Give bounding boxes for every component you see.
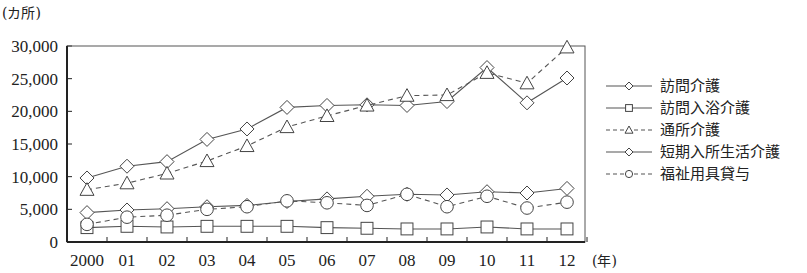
circle-marker — [161, 209, 174, 222]
circle-marker — [241, 200, 254, 213]
diamond-marker — [240, 122, 254, 136]
square-marker — [161, 221, 173, 233]
x-tick-label: 2000 — [70, 251, 104, 270]
square-marker — [401, 223, 413, 235]
series-group — [80, 40, 574, 235]
x-tick-label: 06 — [319, 251, 336, 270]
legend-label: 訪問介護 — [660, 77, 720, 95]
triangle-marker — [280, 120, 294, 133]
diamond-marker — [440, 188, 454, 202]
circle-marker — [625, 170, 632, 177]
square-marker — [561, 223, 573, 235]
y-tick-label: 15,000 — [11, 135, 58, 154]
x-tick-label: 05 — [279, 251, 296, 270]
x-tick-label: 02 — [159, 251, 176, 270]
triangle-marker — [400, 89, 414, 102]
legend-label: 通所介護 — [660, 121, 720, 139]
square-marker — [361, 222, 373, 234]
triangle-marker — [320, 109, 334, 122]
diamond-marker — [560, 71, 574, 85]
y-tick-label: 30,000 — [11, 37, 58, 56]
circle-marker — [81, 218, 94, 231]
y-tick-label: 10,000 — [11, 168, 58, 187]
diamond-marker — [560, 181, 574, 195]
circle-marker — [401, 188, 414, 201]
circle-marker — [281, 195, 294, 208]
circle-marker — [321, 197, 334, 210]
legend-item: 通所介護 — [606, 121, 720, 139]
square-marker — [241, 220, 253, 232]
legend-label: 訪問入浴介護 — [660, 99, 750, 117]
circle-marker — [481, 190, 494, 203]
y-tick-label: 0 — [50, 233, 59, 252]
triangle-marker — [200, 154, 214, 167]
square-marker — [281, 220, 293, 232]
square-marker — [521, 223, 533, 235]
diamond-marker — [120, 159, 134, 173]
x-tick-label: 11 — [519, 251, 535, 270]
line-chart: (カ所) 05,00010,00015,00020,00025,00030,00… — [0, 0, 807, 273]
legend-label: 福祉用具貸与 — [660, 165, 750, 183]
y-tick-label: 25,000 — [11, 70, 58, 89]
legend-item: 福祉用具貸与 — [606, 165, 750, 183]
diamond-marker — [625, 82, 633, 90]
x-tick-label: 09 — [439, 251, 456, 270]
y-tick-label: 20,000 — [11, 102, 58, 121]
square-marker — [626, 105, 633, 112]
legend-item: 訪問入浴介護 — [606, 99, 750, 117]
square-marker — [481, 221, 493, 233]
series-1 — [81, 220, 573, 235]
series-0 — [80, 61, 574, 185]
series-line — [87, 68, 567, 178]
diamond-marker — [520, 186, 534, 200]
square-marker — [201, 220, 213, 232]
diamond-marker — [625, 148, 633, 156]
circle-marker — [121, 211, 134, 224]
x-tick-label: 10 — [479, 251, 496, 270]
triangle-marker — [560, 40, 574, 53]
triangle-marker — [440, 88, 454, 101]
triangle-marker — [160, 166, 174, 179]
square-marker — [441, 223, 453, 235]
legend-item: 訪問介護 — [606, 77, 720, 95]
circle-marker — [521, 202, 534, 215]
plot-frame — [67, 46, 585, 242]
x-tick-label: 04 — [239, 251, 257, 270]
circle-marker — [441, 200, 454, 213]
triangle-marker — [240, 139, 254, 152]
x-tick-label: 03 — [199, 251, 216, 270]
diamond-marker — [280, 100, 294, 114]
x-tick-label: 01 — [119, 251, 136, 270]
triangle-marker — [625, 126, 633, 133]
series-2 — [80, 40, 574, 195]
y-axis-unit: (カ所) — [2, 5, 41, 21]
y-tick-label: 5,000 — [20, 200, 58, 219]
diamond-marker — [80, 206, 94, 220]
circle-marker — [361, 199, 374, 212]
circle-marker — [561, 196, 574, 209]
circle-marker — [201, 203, 214, 216]
diamond-marker — [200, 132, 214, 146]
x-tick-label: 12 — [559, 251, 576, 270]
legend-item: 短期入所生活介護 — [606, 143, 780, 161]
x-tick-label: 08 — [399, 251, 416, 270]
legend-label: 短期入所生活介護 — [660, 143, 780, 161]
square-marker — [321, 222, 333, 234]
legend: 訪問介護訪問入浴介護通所介護短期入所生活介護福祉用具貸与 — [606, 77, 780, 183]
x-axis-unit: (年) — [592, 253, 617, 269]
y-axis-ticks: 05,00010,00015,00020,00025,00030,000 — [11, 37, 72, 252]
x-tick-label: 07 — [359, 251, 377, 270]
